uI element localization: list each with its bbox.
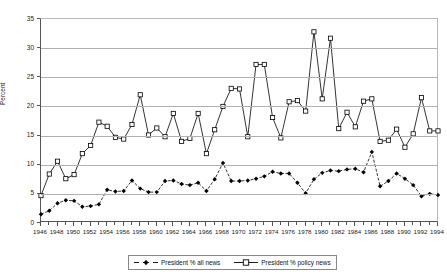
x-tick-mark [255,222,256,226]
x-tick-mark [172,222,173,226]
y-tick-mark [37,105,40,106]
data-point-open-square [171,111,175,115]
gridline [41,165,437,166]
data-point-open-square [254,62,258,66]
x-tick-mark [404,222,405,226]
data-point-open-square [180,139,184,143]
data-point-open-square [345,110,349,114]
data-point-open-square [196,111,200,115]
x-tick-mark [40,222,41,226]
x-tick-mark [396,222,397,225]
y-tick-label: 15 [8,131,34,138]
x-tick-mark [81,222,82,225]
x-tick-mark [205,222,206,226]
data-point-open-square [337,126,341,130]
data-point-filled-diamond [80,204,84,208]
y-tick-mark [37,18,40,19]
data-point-filled-diamond [39,212,43,216]
y-tick-label: 5 [8,189,34,196]
data-point-filled-diamond [262,174,266,178]
gridline [41,77,437,78]
gridline [41,106,437,107]
data-point-open-square [105,124,109,128]
data-point-open-square [353,125,357,129]
data-point-open-square [72,173,76,177]
data-point-filled-diamond [122,189,126,193]
data-point-open-square [155,126,159,130]
data-point-open-square [436,129,440,133]
y-tick-mark [37,193,40,194]
data-point-open-square [370,97,374,101]
x-tick-mark [263,222,264,225]
data-point-filled-diamond [97,202,101,206]
x-tick-mark [272,222,273,226]
data-point-open-square [320,97,324,101]
x-tick-mark [247,222,248,225]
data-point-open-square [395,127,399,131]
x-tick-mark [329,222,330,225]
y-tick-label: 35 [8,15,34,22]
x-tick-mark [214,222,215,225]
data-point-filled-diamond [353,167,357,171]
y-tick-label: 0 [8,219,34,226]
data-point-open-square [97,120,101,124]
y-tick-label: 20 [8,102,34,109]
x-tick-mark [189,222,190,226]
data-point-filled-diamond [171,178,175,182]
x-tick-mark [73,222,74,226]
data-point-open-square [328,36,332,40]
x-tick-mark [98,222,99,225]
x-tick-mark [139,222,140,226]
y-tick-mark [37,76,40,77]
x-tick-mark [412,222,413,225]
x-tick-mark [123,222,124,226]
x-tick-mark [363,222,364,225]
y-tick-label: 10 [8,160,34,167]
y-tick-label: 25 [8,73,34,80]
x-tick-mark [305,222,306,226]
x-tick-mark [114,222,115,225]
x-tick-mark [181,222,182,225]
data-point-filled-diamond [229,179,233,183]
data-point-open-square [130,122,134,126]
data-point-open-square [378,139,382,143]
legend-entry-policy-news: President % policy news [234,258,330,267]
x-tick-mark [230,222,231,225]
data-point-filled-diamond [254,177,258,181]
data-point-open-square [80,152,84,156]
data-point-open-square [419,96,423,100]
data-point-open-square [64,177,68,181]
data-point-filled-diamond [188,183,192,187]
data-point-filled-diamond [179,182,183,186]
x-tick-mark [346,222,347,225]
data-point-open-square [89,143,93,147]
data-point-open-square [204,152,208,156]
chart-legend: President % all news President % policy … [128,255,337,270]
plot-area [40,18,438,222]
x-tick-label: 1994 [425,228,447,236]
data-point-filled-diamond [345,167,349,171]
data-point-open-square [361,99,365,103]
data-point-open-square [138,93,142,97]
series-line-1 [41,32,438,196]
x-tick-mark [313,222,314,225]
data-point-open-square [295,99,299,103]
data-point-open-square [213,128,217,132]
data-point-filled-diamond [279,171,283,175]
x-tick-mark [57,222,58,226]
x-tick-mark [354,222,355,226]
data-point-open-square [270,115,274,119]
x-tick-mark [239,222,240,226]
data-point-filled-diamond [328,168,332,172]
x-tick-mark [106,222,107,226]
data-point-open-square [229,86,233,90]
x-tick-mark [148,222,149,225]
x-tick-mark [164,222,165,225]
data-point-filled-diamond [64,198,68,202]
data-point-open-square [304,109,308,113]
x-tick-mark [90,222,91,226]
x-tick-mark [65,222,66,225]
x-tick-mark [280,222,281,225]
gridline [41,194,437,195]
gridline [41,136,437,137]
